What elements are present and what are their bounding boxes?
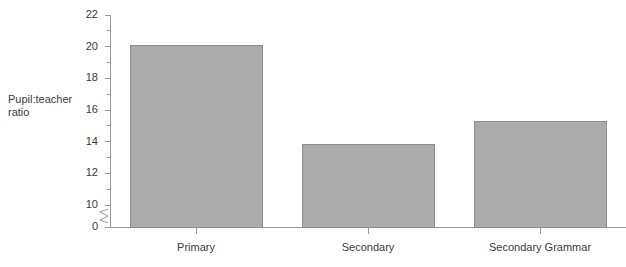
bar[interactable] [130, 45, 262, 227]
bar[interactable] [474, 121, 606, 227]
y-axis-tick-label: 12 [72, 167, 98, 178]
y-axis-tick-label: 0 [72, 221, 98, 232]
axis-break-zigzag-icon [100, 209, 108, 223]
y-axis-tick-label: 16 [72, 104, 98, 115]
y-axis-tick-label: 20 [72, 41, 98, 52]
y-axis-tick-label: 18 [72, 72, 98, 83]
x-axis-tick-label: Secondary [342, 241, 395, 253]
x-axis-tick-label: Primary [177, 241, 215, 253]
x-axis-tick-label: Secondary Grammar [489, 241, 591, 253]
bar-chart: Pupil:teacher ratio 222018161412100Prima… [0, 0, 626, 267]
bar[interactable] [302, 145, 434, 227]
y-axis-tick-label: 14 [72, 136, 98, 147]
y-axis-tick-label: 10 [72, 199, 98, 210]
y-axis-tick-label: 22 [72, 9, 98, 20]
